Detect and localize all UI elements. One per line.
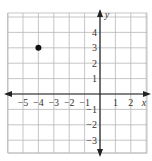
grid [8,13,147,153]
axes [4,9,151,157]
coordinate-plane: −5−4−3−2−1124321−1−2−3xy [0,0,152,161]
y-tick-label: 1 [92,73,97,84]
y-tick-label: −3 [86,135,97,146]
x-tick-label: −5 [18,97,29,108]
x-tick-label: −2 [64,97,75,108]
x-tick-label: 1 [113,97,118,108]
y-tick-label: 4 [92,27,97,38]
x-tick-label: −4 [33,97,44,108]
grid-border [8,13,147,153]
y-tick-label: 2 [92,58,97,69]
y-tick-label: −2 [86,119,97,130]
data-points [35,45,41,51]
x-tick-label: −3 [48,97,59,108]
x-axis-label: x [141,97,147,108]
y-tick-label: 3 [92,42,97,53]
y-tick-label: −1 [86,104,97,115]
data-point [35,45,41,51]
y-axis-label: y [104,9,110,20]
x-tick-label: 2 [128,97,133,108]
